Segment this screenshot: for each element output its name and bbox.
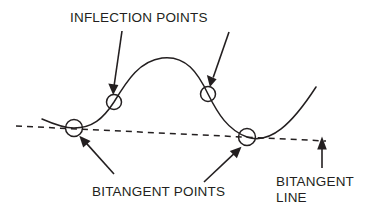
inflection-point-right-marker: [201, 87, 216, 102]
bitangent-points-label: BITANGENT POINTS: [92, 184, 225, 199]
bitangent-inflection-diagram: INFLECTION POINTS BITANGENT POINTS BITAN…: [0, 0, 383, 214]
inflection-points-label: INFLECTION POINTS: [70, 10, 208, 25]
inflection-point-left-marker: [107, 95, 122, 110]
diagram-canvas: INFLECTION POINTS BITANGENT POINTS BITAN…: [0, 0, 383, 214]
bitangent-line-label-line2: LINE: [276, 190, 307, 205]
bitangent-point-left-marker: [66, 120, 83, 137]
bitangent-line-label-line1: BITANGENT: [276, 174, 354, 189]
bitangent-point-right-marker: [239, 129, 256, 146]
